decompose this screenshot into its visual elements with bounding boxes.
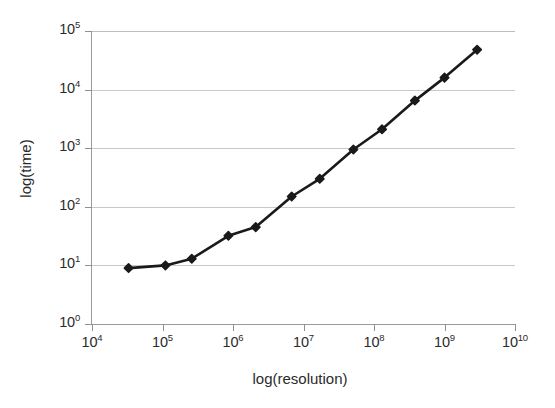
y-tick-mark bbox=[85, 90, 92, 91]
x-tick-label-wrap: 104 bbox=[62, 333, 122, 351]
x-tick-label-wrap: 108 bbox=[344, 333, 404, 351]
y-tick-mark bbox=[85, 31, 92, 32]
x-tick-label: 108 bbox=[364, 334, 385, 350]
x-tick-label-wrap: 106 bbox=[203, 333, 263, 351]
data-point-marker bbox=[440, 73, 448, 81]
y-tick-mark bbox=[85, 148, 92, 149]
y-tick-label: 105 bbox=[0, 21, 80, 37]
gridline-y bbox=[92, 207, 515, 208]
gridline-y bbox=[92, 148, 515, 149]
y-axis-title: log(time) bbox=[17, 89, 34, 249]
data-point-marker bbox=[224, 232, 232, 240]
x-tick-label-wrap: 1010 bbox=[485, 333, 545, 351]
x-tick-label: 104 bbox=[82, 334, 103, 350]
y-tick-label-wrap: 105 bbox=[0, 21, 80, 39]
y-tick-label-wrap: 101 bbox=[0, 255, 80, 273]
y-tick-label: 101 bbox=[0, 255, 80, 271]
x-tick-label-wrap: 107 bbox=[274, 333, 334, 351]
data-point-marker bbox=[287, 192, 295, 200]
data-point-marker bbox=[473, 45, 481, 53]
gridline-y bbox=[92, 265, 515, 266]
gridline-y bbox=[92, 31, 515, 32]
x-tick-label: 106 bbox=[223, 334, 244, 350]
y-tick-label-wrap: 103 bbox=[0, 138, 80, 156]
x-tick-label-wrap: 109 bbox=[415, 333, 475, 351]
data-point-marker bbox=[349, 145, 357, 153]
y-tick-label-wrap: 104 bbox=[0, 80, 80, 98]
y-tick-mark bbox=[85, 265, 92, 266]
series-markers bbox=[124, 45, 481, 272]
gridline-y bbox=[92, 90, 515, 91]
series-polyline bbox=[129, 50, 478, 268]
y-tick-mark bbox=[85, 324, 92, 325]
y-tick-label: 100 bbox=[0, 314, 80, 330]
x-tick-label-wrap: 105 bbox=[133, 333, 193, 351]
chart-figure: 105104103102101100 104105106107108109101… bbox=[0, 0, 555, 408]
data-point-marker bbox=[411, 96, 419, 104]
x-tick-mark bbox=[233, 324, 234, 331]
data-point-marker bbox=[316, 175, 324, 183]
y-tick-label: 102 bbox=[0, 197, 80, 213]
y-tick-label: 104 bbox=[0, 80, 80, 96]
x-tick-mark bbox=[163, 324, 164, 331]
y-axis-line bbox=[91, 31, 92, 325]
x-axis-title: log(resolution) bbox=[0, 370, 555, 387]
data-point-marker bbox=[252, 223, 260, 231]
x-tick-label: 107 bbox=[293, 334, 314, 350]
x-tick-mark bbox=[374, 324, 375, 331]
y-tick-mark bbox=[85, 207, 92, 208]
x-tick-mark bbox=[304, 324, 305, 331]
data-point-marker bbox=[188, 255, 196, 263]
y-tick-label-wrap: 100 bbox=[0, 314, 80, 332]
x-tick-mark bbox=[92, 324, 93, 331]
x-tick-label: 1010 bbox=[502, 334, 528, 350]
x-tick-label: 105 bbox=[152, 334, 173, 350]
y-tick-label-wrap: 102 bbox=[0, 197, 80, 215]
x-tick-mark bbox=[515, 324, 516, 331]
y-tick-label: 103 bbox=[0, 138, 80, 154]
data-point-marker bbox=[378, 125, 386, 133]
x-tick-mark bbox=[445, 324, 446, 331]
x-tick-label: 109 bbox=[434, 334, 455, 350]
